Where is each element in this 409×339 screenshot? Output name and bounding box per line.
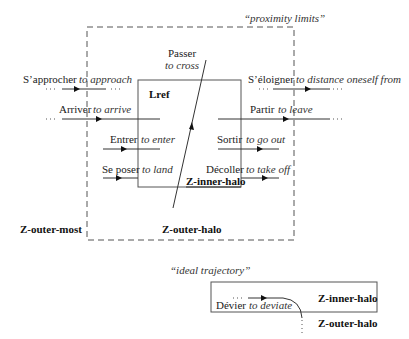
go-out-fr: Sortir (217, 133, 242, 145)
cross-fr: Passer (168, 47, 196, 59)
deviate-en: to deviate (249, 299, 292, 311)
z-outer-halo-label: Z-outer-halo (162, 223, 222, 235)
leave-trajectory: Partir to leave (218, 103, 344, 122)
deviate-trajectory: Dévier to deviate (216, 295, 302, 333)
enter-en: to enter (141, 133, 176, 145)
enter-trajectory: Entrer to enter (103, 133, 176, 152)
take-off-en: to take off (246, 163, 292, 175)
proximity-limits-label: “proximity limits” (244, 12, 325, 24)
bottom-z-outer-halo-label: Z-outer-halo (318, 317, 378, 329)
cross-en: to cross (165, 59, 199, 71)
ideal-trajectory-label: “ideal trajectory” (170, 264, 250, 276)
lref-label: Lref (149, 88, 170, 100)
motion-verbs-diagram: “proximity limits” Lref Z-inner-halo Z-o… (0, 0, 409, 339)
arrive-trajectory: Arriver to arrive (46, 103, 160, 122)
distance-fr: S’éloigner (248, 73, 294, 85)
take-off-fr: Décoller (206, 163, 244, 175)
land-en: to land (142, 163, 173, 175)
enter-fr: Entrer (110, 133, 138, 145)
z-outer-most-label: Z-outer-most (20, 223, 82, 235)
go-out-en: to go out (246, 133, 286, 145)
approach-trajectory: S’approcher to approach (23, 73, 133, 92)
arrive-fr: Arriver (59, 103, 92, 115)
arrive-en: to arrive (93, 103, 131, 115)
leave-fr: Partir (250, 103, 275, 115)
distance-trajectory: S’éloigner to distance oneself from (248, 73, 401, 92)
distance-en: to distance oneself from (296, 73, 401, 85)
leave-en: to leave (278, 103, 313, 115)
approach-fr: S’approcher (23, 73, 77, 85)
deviate-fr: Dévier (216, 299, 246, 311)
z-inner-halo-label: Z-inner-halo (186, 175, 246, 187)
land-fr: Se poser (102, 163, 140, 175)
bottom-z-inner-halo-label: Z-inner-halo (318, 292, 378, 304)
land-trajectory: Se poser to land (102, 163, 173, 181)
go-out-trajectory: Sortir to go out (217, 133, 286, 152)
approach-en: to approach (79, 73, 133, 85)
